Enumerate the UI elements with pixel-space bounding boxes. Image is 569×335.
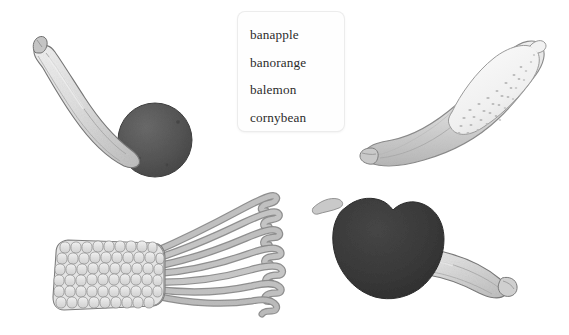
illustration-cornybean (53, 196, 282, 314)
corn-cob (53, 240, 165, 310)
banana-stem-banorange (33, 36, 47, 53)
illustration-plate: banapple banorange balemon cornybean (0, 0, 569, 335)
banana-tip-banapple (498, 277, 517, 296)
apple-stem (312, 198, 342, 214)
bean-pods (152, 196, 282, 314)
banana-body-banorange (34, 46, 140, 168)
banana-tip-balemon (360, 148, 378, 164)
list-item-banorange: banorange (250, 49, 344, 77)
illustration-banapple (312, 198, 517, 298)
fruit-name-list: banapple banorange balemon cornybean (238, 12, 344, 131)
illustration-balemon (360, 41, 546, 166)
list-item-balemon: balemon (250, 76, 344, 104)
apple-body (333, 198, 444, 298)
list-item-banapple: banapple (250, 21, 344, 49)
list-item-cornybean: cornybean (250, 104, 344, 132)
illustration-banorange (33, 36, 192, 177)
